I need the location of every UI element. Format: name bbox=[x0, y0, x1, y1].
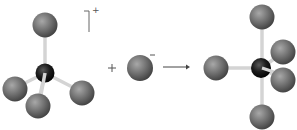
trigonal-bipyramidal-product bbox=[204, 5, 296, 130]
ligand-atom-axial-top bbox=[250, 5, 275, 30]
plus-sign-icon bbox=[108, 64, 116, 72]
charge-bracket bbox=[84, 11, 89, 32]
anion-atom bbox=[127, 55, 153, 81]
ligand-atom-right bbox=[70, 81, 95, 106]
central-atom bbox=[251, 58, 271, 78]
ligand-atom-axial-bottom bbox=[250, 105, 275, 130]
ligand-atom-top bbox=[33, 13, 58, 38]
cation-charge-label: + bbox=[92, 5, 100, 15]
ligand-atom-left bbox=[3, 77, 28, 102]
ligand-atom-equatorial-front bbox=[271, 68, 296, 93]
ligand-atom-bottom bbox=[26, 94, 51, 119]
tetrahedral-cation bbox=[3, 13, 95, 119]
ligand-atom-equatorial-back bbox=[271, 40, 296, 65]
ligand-atom-equatorial-left bbox=[204, 56, 229, 81]
anion bbox=[127, 55, 155, 81]
reaction-diagram bbox=[0, 0, 297, 130]
reaction-arrow-icon bbox=[163, 65, 190, 70]
